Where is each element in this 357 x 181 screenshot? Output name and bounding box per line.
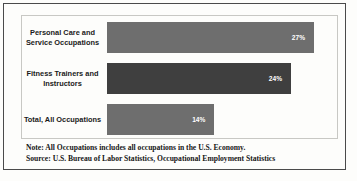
bar-total-all-occupations: 14%	[107, 104, 214, 135]
source-line: Source: U.S. Bureau of Labor Statistics,…	[26, 154, 336, 165]
bar-category-label: Total, All Occupations	[22, 115, 107, 125]
bar-track: 24%	[107, 58, 337, 99]
bar-value-label: 24%	[269, 75, 291, 82]
bar-category-label: Personal Care and Service Occupations	[22, 28, 107, 47]
plot-area: Personal Care and Service Occupations 27…	[21, 15, 338, 139]
bar-category-label: Fitness Trainers and Instructors	[22, 69, 107, 88]
bar-track: 14%	[107, 99, 337, 140]
bar-track: 27%	[107, 17, 337, 58]
figure-outer-border: Personal Care and Service Occupations 27…	[3, 3, 346, 170]
bar-row: Personal Care and Service Occupations 27…	[22, 17, 337, 58]
note-line: Note: All Occupations includes all occup…	[26, 143, 336, 154]
bar-personal-care-and-service-occupations: 27%	[107, 22, 314, 53]
bar-row: Fitness Trainers and Instructors 24%	[22, 58, 337, 99]
figure-footnotes: Note: All Occupations includes all occup…	[26, 143, 336, 164]
bar-chart-figure: Personal Care and Service Occupations 27…	[0, 0, 357, 181]
bar-value-label: 14%	[192, 116, 214, 123]
bar-row: Total, All Occupations 14%	[22, 99, 337, 140]
bar-fitness-trainers-and-instructors: 24%	[107, 63, 291, 94]
bar-value-label: 27%	[292, 34, 314, 41]
